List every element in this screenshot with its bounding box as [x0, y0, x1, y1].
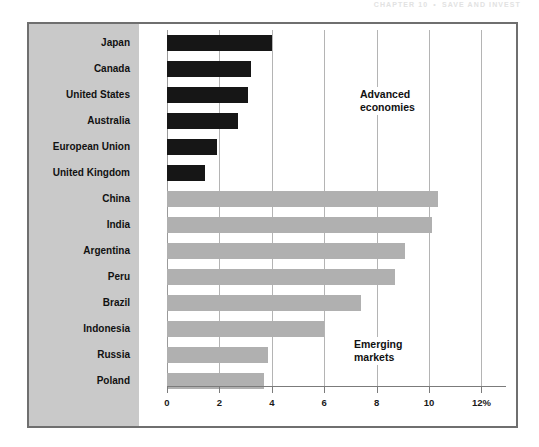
tick-label-0: 0 — [164, 397, 169, 408]
chart-row: Poland — [139, 368, 516, 394]
category-label-peru: Peru — [108, 264, 130, 290]
category-label-india: India — [107, 212, 130, 238]
category-label-united-kingdom: United Kingdom — [53, 160, 130, 186]
tick-label-2: 2 — [217, 397, 222, 408]
tick-mark-0 — [167, 387, 168, 393]
chart-row: United Kingdom — [139, 160, 516, 186]
bar-australia — [167, 113, 238, 129]
chart-row: Russia — [139, 342, 516, 368]
category-label-indonesia: Indonesia — [83, 316, 130, 342]
tick-label-12: 12% — [472, 397, 491, 408]
running-header: CHAPTER 10•SAVE AND INVEST — [374, 1, 521, 8]
bar-argentina — [167, 243, 405, 259]
chart-row: Indonesia — [139, 316, 516, 342]
chart-row: Canada — [139, 56, 516, 82]
chart-row: United States — [139, 82, 516, 108]
category-label-australia: Australia — [87, 108, 130, 134]
bar-united-states — [167, 87, 248, 103]
tick-mark-8 — [377, 387, 378, 393]
tick-mark-12 — [481, 387, 482, 393]
annotation-advanced-line1: Advanced — [360, 88, 415, 101]
annotation-emerging-line2: markets — [354, 351, 402, 364]
bar-rows-group: JapanCanadaUnited StatesAustraliaEuropea… — [139, 30, 516, 394]
tick-label-8: 8 — [374, 397, 379, 408]
annotation-advanced-economies: Advanced economies — [357, 87, 418, 115]
category-label-poland: Poland — [97, 368, 130, 394]
chart-row: Brazil — [139, 290, 516, 316]
bar-canada — [167, 61, 251, 77]
chart-figure-frame: JapanCanadaUnited StatesAustraliaEuropea… — [27, 22, 518, 428]
annotation-advanced-line2: economies — [360, 101, 415, 114]
bar-peru — [167, 269, 395, 285]
tick-label-4: 4 — [269, 397, 274, 408]
chart-row: Peru — [139, 264, 516, 290]
category-label-european-union: European Union — [53, 134, 130, 160]
x-axis-line — [167, 386, 506, 387]
running-header-separator: • — [428, 1, 442, 8]
category-label-brazil: Brazil — [103, 290, 130, 316]
tick-mark-10 — [429, 387, 430, 393]
category-label-united-states: United States — [66, 82, 130, 108]
bar-china — [167, 191, 438, 207]
category-label-argentina: Argentina — [83, 238, 130, 264]
bar-united-kingdom — [167, 165, 205, 181]
annotation-emerging-line1: Emerging — [354, 338, 402, 351]
bar-japan — [167, 35, 272, 51]
chart-row: European Union — [139, 134, 516, 160]
running-header-title: SAVE AND INVEST — [442, 1, 521, 8]
chart-row: China — [139, 186, 516, 212]
bar-european-union — [167, 139, 217, 155]
category-label-china: China — [102, 186, 130, 212]
tick-label-10: 10 — [424, 397, 435, 408]
chart-row: Japan — [139, 30, 516, 56]
bar-brazil — [167, 295, 361, 311]
bar-india — [167, 217, 432, 233]
chart-row: India — [139, 212, 516, 238]
category-label-russia: Russia — [97, 342, 130, 368]
category-label-canada: Canada — [94, 56, 130, 82]
chart-row: Argentina — [139, 238, 516, 264]
plot-area: JapanCanadaUnited StatesAustraliaEuropea… — [139, 24, 516, 426]
bar-russia — [167, 347, 268, 363]
tick-label-6: 6 — [322, 397, 327, 408]
tick-mark-6 — [324, 387, 325, 393]
chart-row: Australia — [139, 108, 516, 134]
tick-mark-2 — [219, 387, 220, 393]
annotation-emerging-markets: Emerging markets — [351, 337, 405, 365]
running-header-chapter: CHAPTER 10 — [374, 1, 429, 8]
tick-mark-4 — [272, 387, 273, 393]
category-label-japan: Japan — [101, 30, 130, 56]
bar-indonesia — [167, 321, 324, 337]
